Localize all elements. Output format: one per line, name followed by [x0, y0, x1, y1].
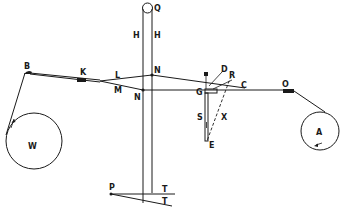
thread-o-to-a	[294, 91, 325, 112]
label-h-right: H	[154, 31, 161, 40]
label-k: K	[80, 68, 87, 77]
pulley-o	[283, 89, 294, 93]
label-o: O	[282, 80, 289, 89]
label-x: X	[221, 113, 228, 122]
label-e: E	[209, 141, 214, 150]
label-r: R	[229, 71, 235, 80]
label-t-upper: T	[162, 185, 168, 194]
label-d: D	[221, 65, 228, 74]
thread-b-to-k-upper	[30, 73, 100, 80]
label-n-lower: N	[134, 93, 141, 102]
vertical-post	[143, 3, 153, 203]
diagram-canvas: Q H H B K L M N N D R C G O S X E W A P …	[0, 0, 343, 213]
label-a: A	[316, 128, 323, 137]
label-h-left: H	[133, 31, 140, 40]
label-b: B	[24, 62, 30, 71]
thread-b-to-k-lower	[30, 74, 100, 82]
point-p	[110, 193, 113, 196]
label-w: W	[28, 142, 37, 151]
label-q: Q	[154, 4, 161, 13]
drum-a-arrowhead	[314, 144, 318, 148]
thread-w-to-b	[6, 73, 25, 135]
label-s: S	[197, 113, 203, 122]
thread-l	[100, 75, 152, 81]
label-c: C	[241, 81, 247, 90]
scale-s	[205, 93, 208, 141]
pointer-d-head	[204, 72, 208, 76]
label-n-upper: N	[154, 66, 161, 75]
label-p: P	[109, 183, 115, 192]
label-g: G	[196, 88, 203, 97]
label-l: L	[115, 71, 120, 80]
label-m: M	[114, 86, 122, 95]
label-t-lower: T	[162, 197, 168, 206]
loop-q	[143, 3, 153, 13]
clamp-k	[77, 78, 86, 82]
